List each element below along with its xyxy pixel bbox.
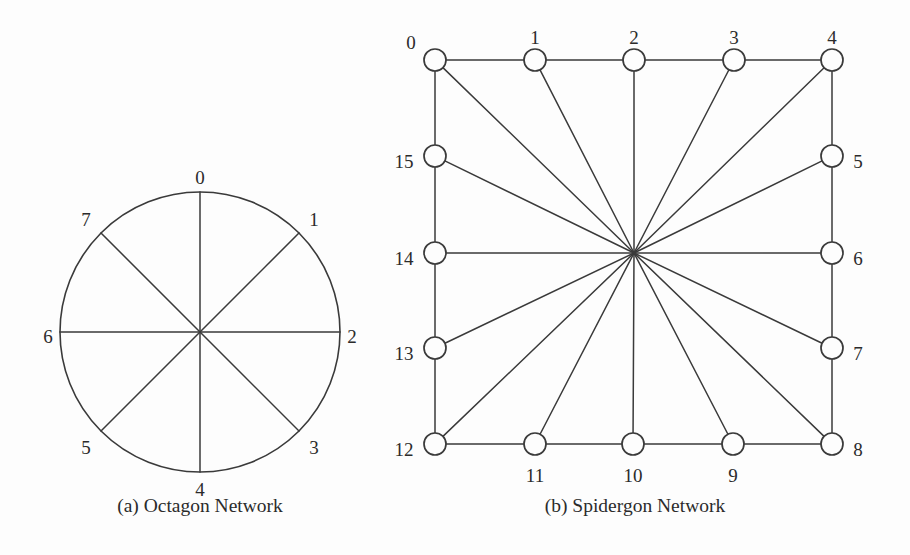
spidergon-node-label-3: 3 bbox=[729, 27, 739, 48]
spidergon-node-label-11: 11 bbox=[526, 465, 544, 486]
spidergon-node-label-15: 15 bbox=[395, 151, 414, 172]
spidergon-node-3 bbox=[723, 49, 745, 71]
figure-canvas: 01234567 (a) Octagon Network 01234567891… bbox=[0, 0, 910, 555]
spidergon-node-14 bbox=[424, 242, 446, 264]
spidergon-node-6 bbox=[821, 242, 843, 264]
spidergon-node-labels: 0123456789101112131415 bbox=[395, 27, 863, 486]
spidergon-node-11 bbox=[524, 433, 546, 455]
spidergon-node-label-5: 5 bbox=[853, 151, 863, 172]
spidergon-node-label-4: 4 bbox=[827, 27, 837, 48]
spidergon-node-0 bbox=[424, 49, 446, 71]
spidergon-network-panel: 0123456789101112131415 (b) Spidergon Net… bbox=[395, 27, 863, 517]
spidergon-node-label-13: 13 bbox=[395, 343, 414, 364]
spidergon-node-label-2: 2 bbox=[629, 27, 639, 48]
octagon-node-label-1: 1 bbox=[309, 209, 319, 230]
spidergon-node-label-8: 8 bbox=[853, 439, 863, 460]
spidergon-node-12 bbox=[424, 433, 446, 455]
spidergon-node-9 bbox=[722, 433, 744, 455]
spidergon-node-2 bbox=[623, 49, 645, 71]
spidergon-node-15 bbox=[424, 145, 446, 167]
octagon-caption: (a) Octagon Network bbox=[117, 495, 283, 517]
octagon-node-label-7: 7 bbox=[81, 209, 91, 230]
spidergon-node-label-0: 0 bbox=[406, 32, 416, 53]
spidergon-node-label-12: 12 bbox=[395, 439, 414, 460]
spidergon-node-10 bbox=[622, 433, 644, 455]
spidergon-cross-edges bbox=[443, 68, 824, 437]
spidergon-node-8 bbox=[821, 433, 843, 455]
spidergon-node-label-7: 7 bbox=[853, 343, 863, 364]
octagon-node-label-5: 5 bbox=[81, 437, 91, 458]
spidergon-node-label-6: 6 bbox=[853, 248, 863, 269]
octagon-node-label-0: 0 bbox=[195, 167, 205, 188]
octagon-node-label-2: 2 bbox=[347, 326, 357, 347]
octagon-network-panel: 01234567 (a) Octagon Network bbox=[43, 167, 357, 517]
spidergon-node-5 bbox=[821, 145, 843, 167]
spidergon-node-13 bbox=[424, 337, 446, 359]
octagon-node-label-6: 6 bbox=[43, 326, 53, 347]
octagon-diameter-lines bbox=[60, 192, 340, 472]
spidergon-node-4 bbox=[821, 49, 843, 71]
spidergon-node-label-14: 14 bbox=[395, 248, 415, 269]
spidergon-node-label-10: 10 bbox=[624, 465, 643, 486]
spidergon-caption: (b) Spidergon Network bbox=[545, 495, 726, 517]
spidergon-node-7 bbox=[821, 337, 843, 359]
spidergon-node-1 bbox=[524, 49, 546, 71]
spidergon-node-label-1: 1 bbox=[530, 27, 540, 48]
figure-root: 01234567 (a) Octagon Network 01234567891… bbox=[0, 0, 910, 555]
octagon-node-label-3: 3 bbox=[309, 437, 319, 458]
spidergon-node-label-9: 9 bbox=[728, 465, 738, 486]
